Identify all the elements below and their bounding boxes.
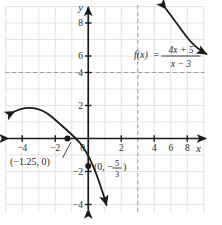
function-equals: =	[154, 49, 160, 60]
x-intercept-label: (−1.25, 0)	[10, 156, 50, 168]
function-numerator: 4x + 5	[169, 45, 194, 55]
figure-background	[0, 0, 222, 225]
point-marker-x-intercept	[65, 136, 71, 142]
x-axis-label: x	[195, 143, 201, 154]
y-tick-label: 6	[78, 51, 83, 61]
y-axis-label: y	[77, 2, 83, 13]
y-tick-label: 8	[78, 18, 83, 28]
x-tick-label: 4	[152, 143, 157, 153]
y-tick-label: −4	[73, 200, 83, 210]
point-marker-y-intercept	[85, 163, 91, 169]
x-tick-label: 2	[119, 143, 124, 153]
x-tick-label: −2	[50, 143, 60, 153]
graph-canvas: −4 −2 0 2 4 6 8 8 6 4 2 −2 −4 x y	[0, 0, 222, 225]
function-name: f(x)	[134, 49, 149, 61]
y-intercept-label-close: )	[123, 161, 126, 173]
y-tick-label: 2	[78, 101, 83, 111]
y-intercept-label-open: (0, −	[94, 161, 113, 173]
x-tick-label: 6	[168, 143, 173, 153]
rational-function-graph-figure: )	[0, 0, 222, 225]
y-tick-label: −2	[73, 167, 83, 177]
y-intercept-denominator: 3	[115, 169, 119, 179]
function-denominator: x − 3	[170, 59, 191, 69]
y-intercept-numerator: 5	[115, 158, 119, 168]
x-tick-label: −4	[17, 143, 27, 153]
x-tick-label: 8	[185, 143, 190, 153]
y-tick-label: 4	[78, 68, 83, 78]
